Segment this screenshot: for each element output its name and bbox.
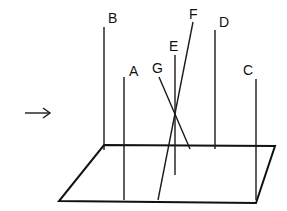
rod-label-b: B	[108, 10, 117, 26]
rod-label-g: G	[152, 60, 163, 76]
rod-labels: ABCDEFG	[108, 6, 253, 79]
rod-label-e: E	[169, 38, 178, 54]
rods-on-plane-diagram: ABCDEFG	[0, 0, 287, 211]
rod-label-d: D	[219, 14, 229, 30]
rod-label-a: A	[129, 63, 139, 79]
rods-group	[104, 22, 256, 200]
direction-arrow-icon	[25, 108, 50, 118]
rod-label-f: F	[189, 6, 198, 22]
rod-label-c: C	[243, 62, 253, 78]
